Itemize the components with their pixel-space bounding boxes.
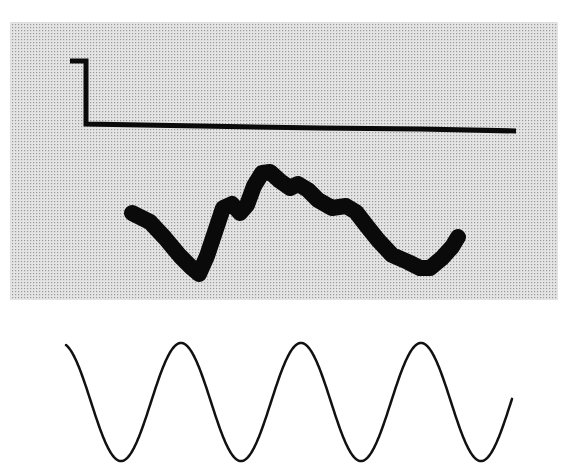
waveform-figure (0, 0, 568, 473)
waveform-canvas (0, 0, 568, 473)
stippled-trace-panel (10, 22, 558, 300)
sinusoid-trace (66, 343, 512, 461)
